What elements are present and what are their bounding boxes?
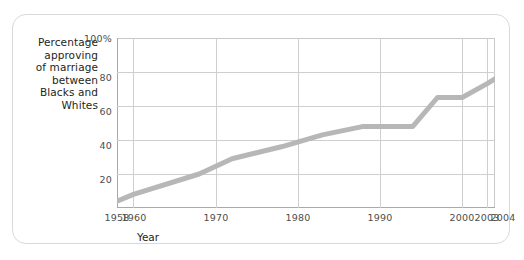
x-tick-label-1960: 1960 — [117, 212, 151, 223]
y-tick-label-80: 80 — [66, 72, 112, 83]
x-axis-title: Year — [0, 231, 524, 243]
x-tick-label-1970: 1970 — [199, 212, 233, 223]
x-tick-label-2004: 2004 — [478, 212, 524, 223]
y-tick-label-40: 40 — [66, 140, 112, 151]
data-series-line — [117, 38, 495, 208]
y-tick-label-100: 100% — [66, 33, 112, 44]
plot-area — [117, 38, 495, 208]
x-axis-title-text: Year — [137, 231, 159, 243]
y-tick-label-20: 20 — [66, 174, 112, 185]
x-tick-label-1990: 1990 — [363, 212, 397, 223]
x-tick-label-1980: 1980 — [281, 212, 315, 223]
y-tick-label-60: 60 — [66, 106, 112, 117]
y-axis-title-line-2: approving — [14, 49, 98, 62]
chart-figure: Percentage approving of marriage between… — [0, 0, 524, 260]
y-axis-title-line-5: Blacks and — [14, 86, 98, 99]
